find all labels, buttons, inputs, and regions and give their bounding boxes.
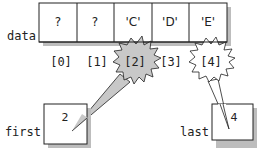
last-value: 4 [231,111,238,124]
index-label-0: [0] [50,55,72,69]
index-label-4: [4] [200,55,222,69]
index-label-3: [3] [160,55,182,69]
cell-value-4: 'E' [201,15,215,29]
cell-value-1: ? [92,15,98,29]
last-label: last [180,125,209,139]
diagram-canvas: ? ? 'C' 'D' 'E' data [0] [1] [2] [3] [4]… [0,0,259,148]
index-label-1: [1] [86,55,108,69]
cell-value-0: ? [55,15,61,29]
index-label-2: [2] [124,55,146,69]
array-name-label: data [7,29,36,43]
first-label: first [5,125,41,139]
cell-value-3: 'D' [162,15,178,29]
cell-value-2: 'C' [126,15,141,29]
first-value: 2 [62,111,69,124]
